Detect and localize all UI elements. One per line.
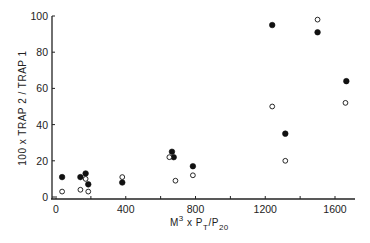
scatter-chart: 020406080100 040080012001600 100 x TRAP … (0, 0, 370, 243)
axes: 020406080100 040080012001600 (30, 10, 355, 215)
filled-data-point (315, 29, 321, 35)
x-tick-label: 1600 (323, 203, 347, 215)
y-tick-label: 80 (36, 46, 48, 58)
y-tick-label: 0 (42, 191, 48, 203)
y-tick-label: 100 (30, 10, 48, 22)
data-points (59, 17, 349, 194)
filled-data-point (83, 171, 89, 177)
open-data-point (190, 173, 195, 178)
x-tick-label: 800 (187, 203, 205, 215)
filled-data-point (190, 163, 196, 169)
x-tick-label: 0 (53, 203, 59, 215)
open-data-point (78, 187, 83, 192)
filled-data-point (283, 131, 289, 137)
x-tick-label: 400 (117, 203, 135, 215)
open-data-point (86, 189, 91, 194)
open-data-point (120, 175, 125, 180)
y-tick-label: 60 (36, 82, 48, 94)
filled-data-point (59, 174, 65, 180)
filled-data-point (119, 180, 125, 186)
filled-data-point (85, 182, 91, 188)
y-tick-label: 40 (36, 119, 48, 131)
open-data-point (60, 189, 65, 194)
y-ticks: 020406080100 (30, 10, 55, 203)
x-tick-label: 1200 (254, 203, 278, 215)
y-tick-label: 20 (36, 155, 48, 167)
open-data-point (173, 178, 178, 183)
open-data-point (283, 158, 288, 163)
open-data-point (343, 100, 348, 105)
filled-data-point (78, 174, 84, 180)
filled-data-point (169, 149, 175, 155)
open-data-point (83, 177, 88, 182)
y-axis-label: 100 x TRAP 2 / TRAP 1 (17, 50, 28, 165)
open-data-point (315, 17, 320, 22)
x-axis-label: M3 x PT/P20 (170, 214, 229, 232)
open-data-point (167, 155, 172, 160)
open-data-point (270, 104, 275, 109)
filled-data-point (269, 22, 275, 28)
filled-data-point (344, 78, 350, 84)
